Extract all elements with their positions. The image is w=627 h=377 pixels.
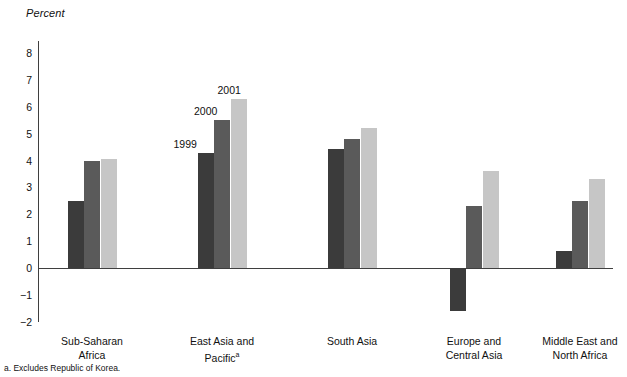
chart-footnote: a. Excludes Republic of Korea. <box>4 363 120 373</box>
zero-baseline <box>38 268 613 269</box>
bar-2000-east-asia-and-pacific <box>214 120 230 268</box>
y-tick-neg1: −1 <box>10 289 32 301</box>
footnote-marker: a <box>236 351 240 358</box>
bar-2000-middle-east-and-north-africa <box>572 201 588 268</box>
y-tick-5: 5 <box>10 128 32 140</box>
category-label-line: Africa <box>17 348 167 362</box>
category-label-middle-east-and-north-africa: Middle East andNorth Africa <box>505 334 627 362</box>
category-label-line: East Asia and <box>147 334 297 348</box>
y-tick-neg2: −2 <box>10 316 32 328</box>
y-tick-6: 6 <box>10 101 32 113</box>
series-label-2000: 2000 <box>194 105 217 117</box>
y-tick-0: 0 <box>10 262 32 274</box>
bar-2001-sub-saharan-africa <box>101 159 117 268</box>
category-label-line: Pacifica <box>147 348 297 365</box>
y-axis-title: Percent <box>26 7 65 19</box>
bar-2001-europe-and-central-asia <box>483 171 499 268</box>
category-label-east-asia-and-pacific: East Asia andPacifica <box>147 334 297 365</box>
category-label-line: North Africa <box>505 348 627 362</box>
y-tick-3: 3 <box>10 181 32 193</box>
bar-2000-south-asia <box>344 139 360 268</box>
y-tick-1: 1 <box>10 235 32 247</box>
bar-2001-east-asia-and-pacific <box>231 99 247 268</box>
bar-2001-south-asia <box>361 128 377 268</box>
category-label-sub-saharan-africa: Sub-SaharanAfrica <box>17 334 167 362</box>
category-label-line: Sub-Saharan <box>17 334 167 348</box>
bar-2000-sub-saharan-africa <box>84 161 100 268</box>
bar-1999-south-asia <box>328 149 344 268</box>
category-label-line: Middle East and <box>505 334 627 348</box>
y-tick-8: 8 <box>10 47 32 59</box>
series-label-1999: 1999 <box>174 138 197 150</box>
y-tick-7: 7 <box>10 74 32 86</box>
series-label-2001: 2001 <box>218 84 241 96</box>
bar-2000-europe-and-central-asia <box>466 206 482 268</box>
bar-chart: Percent 876543210−1−2 199920002001 Sub-S… <box>0 0 627 377</box>
bar-1999-east-asia-and-pacific <box>198 153 214 268</box>
y-axis-line <box>38 41 39 322</box>
bar-2001-middle-east-and-north-africa <box>589 179 605 268</box>
bar-1999-sub-saharan-africa <box>68 201 84 268</box>
y-tick-2: 2 <box>10 208 32 220</box>
y-tick-4: 4 <box>10 155 32 167</box>
bar-1999-europe-and-central-asia <box>450 268 466 311</box>
bar-1999-middle-east-and-north-africa <box>556 251 572 268</box>
